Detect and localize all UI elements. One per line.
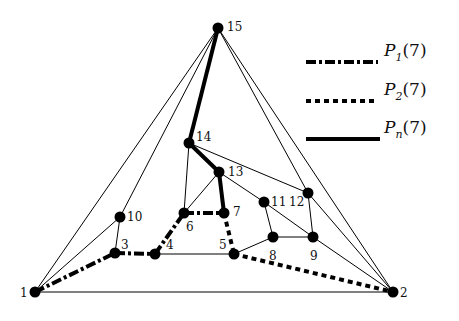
node-label-15: 15 — [227, 20, 242, 34]
legend-label-pn: Pn(7) — [383, 117, 427, 141]
node-label-4: 4 — [166, 238, 174, 252]
node-9 — [308, 232, 319, 243]
node-label-11: 11 — [271, 195, 286, 209]
edge-6-13 — [184, 172, 219, 213]
node-13 — [214, 167, 225, 178]
edge-1-10 — [35, 217, 120, 292]
edge-15-1 — [35, 28, 218, 292]
node-label-2: 2 — [400, 286, 408, 300]
node-label-9: 9 — [310, 249, 318, 263]
node-4 — [150, 249, 161, 260]
legend-label-p2: P2(7) — [383, 79, 427, 103]
edges-layer — [35, 28, 393, 292]
node-15 — [213, 23, 224, 34]
node-11 — [259, 197, 270, 208]
node-3 — [110, 248, 121, 259]
node-1 — [30, 287, 41, 298]
legend: P1(7) P2(7) Pn(7) — [306, 40, 427, 141]
node-label-8: 8 — [269, 249, 277, 263]
node-label-10: 10 — [127, 210, 142, 224]
node-7 — [219, 208, 230, 219]
node-8 — [268, 232, 279, 243]
node-5 — [229, 249, 240, 260]
nodes-layer — [30, 23, 399, 298]
node-10 — [115, 212, 126, 223]
node-6 — [179, 208, 190, 219]
edge-15-14 — [189, 28, 218, 143]
edge-3-4 — [115, 253, 155, 254]
legend-item-p1: P1(7) — [306, 40, 427, 64]
edge-1-3 — [35, 253, 115, 292]
edge-15-10 — [120, 28, 218, 217]
legend-label-p1: P1(7) — [383, 40, 427, 64]
node-label-14: 14 — [196, 130, 212, 144]
edge-14-13 — [189, 143, 219, 172]
edge-15-2 — [218, 28, 393, 292]
node-label-6: 6 — [186, 220, 194, 234]
edge-5-8 — [234, 237, 273, 254]
edge-6-14 — [184, 143, 189, 213]
node-2 — [388, 287, 399, 298]
node-label-3: 3 — [121, 238, 129, 252]
edge-12-9 — [308, 193, 313, 237]
graph-diagram: 123456789101112131415 P1(7) P2(7) Pn(7) — [0, 0, 459, 321]
legend-item-pn: Pn(7) — [306, 117, 427, 141]
node-label-13: 13 — [228, 165, 243, 179]
edge-13-7 — [219, 172, 224, 213]
node-label-5: 5 — [219, 238, 227, 252]
node-14 — [184, 138, 195, 149]
node-label-7: 7 — [233, 205, 241, 219]
node-label-1: 1 — [20, 286, 28, 300]
node-label-12: 12 — [289, 195, 304, 209]
legend-item-p2: P2(7) — [306, 79, 427, 103]
